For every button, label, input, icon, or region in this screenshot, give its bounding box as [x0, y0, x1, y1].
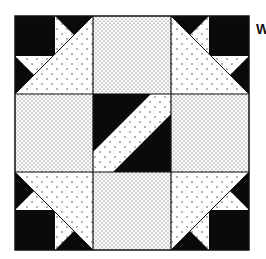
- cell-bottom-right: [171, 172, 249, 250]
- cell-top-right: [171, 16, 249, 94]
- cell-bottom-left: [15, 172, 93, 250]
- cell-middle-right: [171, 94, 249, 172]
- cell-middle-left: [15, 94, 93, 172]
- cell-center: [93, 94, 171, 172]
- cell-top-left: [15, 16, 93, 94]
- quilt-block: [0, 0, 266, 259]
- cell-top-center: [93, 16, 171, 94]
- margin-text: W: [256, 21, 266, 37]
- cell-bottom-center: [93, 172, 171, 250]
